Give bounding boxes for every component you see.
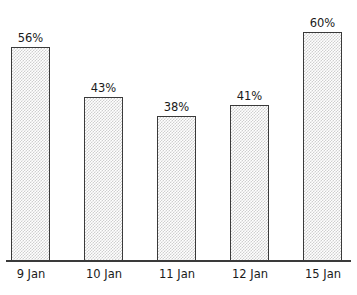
bar-rect-1[interactable] bbox=[84, 97, 123, 262]
bar-rect-3[interactable] bbox=[230, 105, 269, 262]
x-axis-tick-label-1: 10 Jan bbox=[69, 267, 139, 282]
bar-value-label-1: 43% bbox=[74, 82, 133, 95]
x-axis-tick-label-2: 11 Jan bbox=[142, 267, 212, 282]
x-axis-tick-label-4: 15 Jan bbox=[288, 267, 357, 282]
x-axis-category-labels: 9 Jan 10 Jan 11 Jan 12 Jan 15 Jan bbox=[0, 267, 357, 287]
bar-rect-0[interactable] bbox=[11, 47, 50, 262]
bar-value-label-0: 56% bbox=[1, 32, 60, 45]
plot-area: 56% 43% 38% 41% 60% bbox=[0, 0, 357, 262]
bar-chart: 56% 43% 38% 41% 60% 9 Jan 10 Jan 11 Jan … bbox=[0, 0, 357, 295]
x-axis-line bbox=[6, 260, 351, 262]
bar-value-label-4: 60% bbox=[293, 17, 352, 30]
x-axis-tick-label-3: 12 Jan bbox=[215, 267, 285, 282]
bar-rect-2[interactable] bbox=[157, 116, 196, 262]
x-axis-tick-label-0: 9 Jan bbox=[0, 267, 66, 282]
bar-value-label-3: 41% bbox=[220, 90, 279, 103]
bar-rect-4[interactable] bbox=[303, 32, 342, 262]
bar-value-label-2: 38% bbox=[147, 101, 206, 114]
